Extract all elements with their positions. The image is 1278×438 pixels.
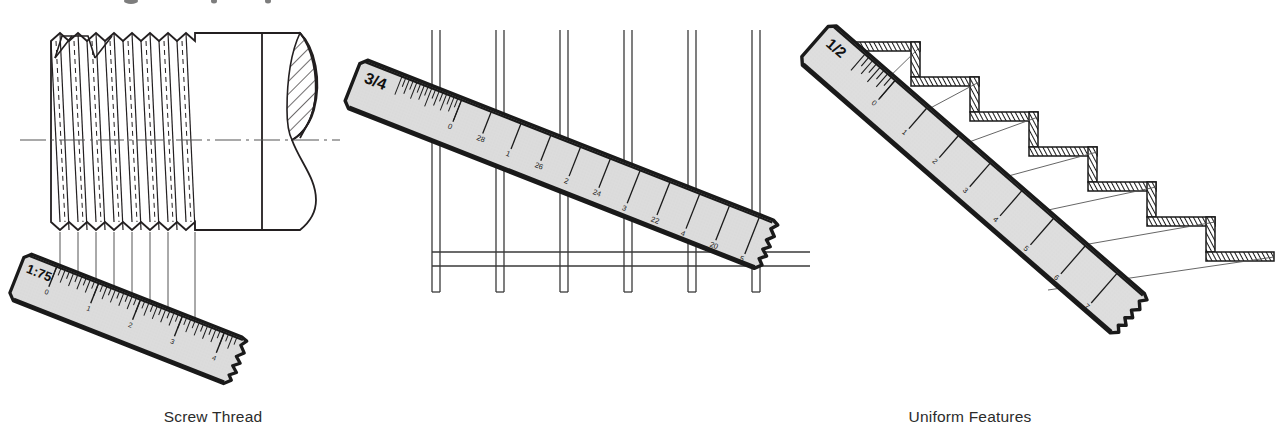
figure-illustration: 0 1 2 3 4 1:75 Screw Thread [0, 0, 1278, 438]
panel-stairs: 0 1 2 3 4 5 6 7 1/2 Stairs [810, 0, 1278, 438]
column [688, 30, 696, 292]
ruler-screw-thread[interactable]: 0 1 2 3 4 1:75 [8, 252, 250, 386]
stair-step [1206, 252, 1274, 261]
ruler-uniform-features[interactable]: 0 28 1 26 2 24 3 22 4 20 5 3/4 [343, 58, 780, 271]
screw-thread-flank-lines [51, 33, 195, 230]
stair-step [1147, 217, 1215, 252]
column [432, 30, 440, 292]
screw-break-hatching [287, 33, 316, 140]
stair-step [1029, 147, 1097, 182]
